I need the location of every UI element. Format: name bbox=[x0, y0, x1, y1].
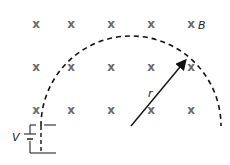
field-x-mark: x bbox=[67, 60, 75, 74]
battery-circuit bbox=[24, 125, 36, 153]
radius-label-r: r bbox=[148, 87, 154, 100]
voltage-label-v: V bbox=[12, 131, 21, 144]
magnetic-field-into-page-marks: xxxxxxxxxxxxxxx bbox=[32, 17, 195, 117]
field-x-mark: x bbox=[107, 17, 115, 31]
field-x-mark: x bbox=[107, 60, 115, 74]
field-x-mark: x bbox=[147, 60, 155, 74]
field-x-mark: x bbox=[67, 103, 75, 117]
field-label-b: B bbox=[198, 19, 206, 32]
field-x-mark: x bbox=[107, 103, 115, 117]
field-x-mark: x bbox=[32, 17, 40, 31]
accelerating-plates bbox=[30, 125, 56, 153]
field-x-mark: x bbox=[32, 103, 40, 117]
radius-arrow bbox=[131, 61, 185, 126]
field-x-mark: x bbox=[32, 60, 40, 74]
field-x-mark: x bbox=[187, 17, 195, 31]
magnetic-field-diagram: xxxxxxxxxxxxxxx B r V bbox=[0, 0, 230, 165]
field-x-mark: x bbox=[67, 17, 75, 31]
field-x-mark: x bbox=[147, 17, 155, 31]
field-x-mark: x bbox=[187, 103, 195, 117]
